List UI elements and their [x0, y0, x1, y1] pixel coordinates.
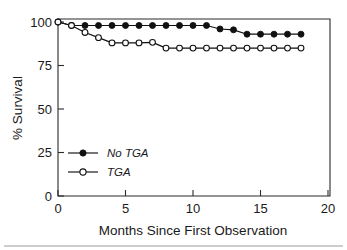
data-point-tga-18	[298, 45, 304, 51]
data-point-tga-9	[177, 45, 183, 51]
legend-item-no-tga: No TGA	[68, 147, 149, 159]
legend-marker-open-circle-icon	[80, 169, 86, 175]
x-tick-label-15: 15	[253, 201, 267, 216]
data-point-tga-16	[271, 45, 277, 51]
legend-label-tga: TGA	[107, 166, 131, 178]
data-point-tga-2	[82, 30, 88, 36]
data-point-tga-14	[244, 45, 250, 51]
data-point-tga-7	[150, 39, 156, 45]
data-point-tga-10	[190, 45, 196, 51]
data-point-no-tga-7	[150, 22, 156, 28]
legend-marker-filled-circle-icon	[80, 150, 86, 156]
data-point-tga-17	[285, 45, 291, 51]
data-point-no-tga-3	[96, 22, 102, 28]
x-axis-ticks: 0 5 10 15 20	[54, 190, 335, 216]
data-point-tga-3	[96, 35, 102, 41]
data-point-no-tga-11	[204, 22, 210, 28]
data-point-no-tga-17	[285, 31, 291, 37]
x-tick-label-20: 20	[321, 201, 335, 216]
series-no-tga	[55, 19, 304, 37]
data-point-no-tga-8	[163, 22, 169, 28]
data-point-tga-4	[109, 40, 115, 46]
x-tick-label-10: 10	[186, 201, 200, 216]
data-point-tga-11	[204, 45, 210, 51]
data-point-no-tga-6	[136, 22, 142, 28]
data-point-no-tga-13	[231, 27, 237, 33]
y-tick-label-25: 25	[38, 145, 52, 160]
data-point-tga-13	[231, 45, 237, 51]
y-tick-label-100: 100	[30, 15, 52, 30]
y-tick-label-75: 75	[38, 58, 52, 73]
x-tick-label-5: 5	[122, 201, 129, 216]
data-point-tga-1	[69, 23, 75, 29]
data-point-no-tga-14	[244, 31, 250, 37]
data-point-no-tga-2	[82, 22, 88, 28]
data-point-no-tga-16	[271, 31, 277, 37]
y-tick-label-50: 50	[38, 102, 52, 117]
y-axis-ticks: 0 25 50 75 100	[30, 15, 64, 204]
data-point-no-tga-15	[258, 31, 264, 37]
data-point-tga-0	[55, 19, 61, 25]
data-point-no-tga-4	[109, 22, 115, 28]
data-point-no-tga-9	[177, 22, 183, 28]
data-point-tga-8	[163, 45, 169, 51]
data-point-tga-6	[136, 40, 142, 46]
y-axis-title: % Survival	[10, 76, 25, 140]
legend-item-tga: TGA	[68, 166, 131, 178]
series-layer	[55, 19, 304, 51]
data-point-no-tga-12	[217, 26, 223, 32]
data-point-no-tga-10	[190, 22, 196, 28]
data-point-tga-5	[123, 40, 129, 46]
data-point-tga-12	[217, 45, 223, 51]
x-axis-title: Months Since First Observation	[99, 223, 287, 238]
data-point-no-tga-5	[123, 22, 129, 28]
data-point-no-tga-18	[298, 31, 304, 37]
x-tick-label-0: 0	[54, 201, 61, 216]
data-point-tga-15	[258, 45, 264, 51]
y-tick-label-0: 0	[45, 189, 52, 204]
legend-label-no-tga: No TGA	[107, 147, 149, 159]
figure-panel: 0 25 50 75 100 0 5 10 15 20 Months Since…	[0, 0, 347, 250]
chart-legend: No TGA TGA	[68, 147, 149, 178]
survival-curve-chart: 0 25 50 75 100 0 5 10 15 20 Months Since…	[0, 0, 347, 250]
